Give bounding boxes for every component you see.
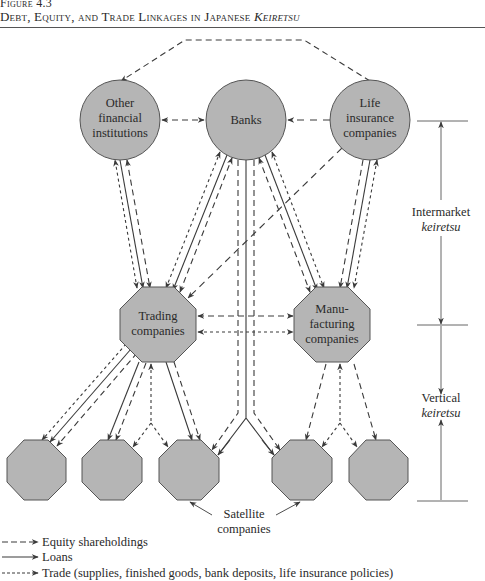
equity-line-manufacturing-sat4 — [306, 364, 326, 440]
equity-line-banks-satellite4 — [254, 160, 280, 450]
satellite-pointer-left — [190, 502, 212, 515]
satellite-company-3 — [159, 440, 219, 500]
equity-line-banks-trading — [180, 158, 232, 292]
satellite-company-4 — [272, 440, 332, 500]
trade-line-fork-sat4 — [322, 423, 340, 447]
loan-line-otherfi-trading — [120, 160, 143, 288]
vertical-label: Verticalkeiretsu — [421, 391, 461, 420]
equity-line-banks-satellite3 — [212, 160, 238, 450]
satellite-label: Satellitecompanies — [217, 507, 271, 536]
equity-line-trading-sat1 — [57, 353, 137, 446]
equity-line-otherfi-trading — [127, 160, 150, 288]
equity-line-manufacturing-sat5 — [354, 364, 376, 440]
loan-line-trading-sat2 — [108, 362, 139, 440]
label-trading: Tradingcompanies — [131, 309, 185, 338]
legend-loans-label: Loans — [42, 550, 73, 565]
loan-line-banks-satellites — [218, 160, 274, 455]
legend-equity-label: Equity shareholdings — [42, 535, 148, 550]
loan-line-banks-trading — [173, 155, 227, 290]
equity-line-life-to-otherfi — [121, 40, 370, 81]
trade-line-fork-sat2 — [133, 423, 151, 447]
intermarket-label: Intermarketkeiretsu — [412, 205, 471, 234]
equity-line-trading-sat3 — [174, 362, 200, 440]
loan-arrow-sat3 — [218, 440, 230, 455]
trade-line-fork-sat3 — [151, 423, 168, 447]
satellite-company-2 — [82, 440, 142, 500]
loan-line-trading-sat1 — [50, 349, 131, 442]
loan-line-trading-sat3 — [166, 362, 192, 440]
equity-line-banks-manufacturing — [259, 158, 310, 292]
legend-trade-label: Trade (supplies, finished goods, bank de… — [42, 566, 393, 581]
keiretsu-diagram: Otherfinancialinstitutions Banks Lifeins… — [0, 0, 485, 581]
loan-line-banks-manufacturing — [265, 155, 317, 290]
label-banks: Banks — [230, 113, 261, 127]
trade-line-life-manufacturing — [354, 160, 377, 288]
satellite-pointer-right — [276, 502, 300, 515]
trade-line-fork-sat5 — [340, 423, 357, 447]
satellite-company-5 — [349, 440, 408, 500]
trade-line-banks-trading — [166, 152, 220, 288]
equity-line-life-manufacturing — [340, 160, 363, 288]
trade-line-banks-manufacturing — [272, 152, 324, 288]
satellite-company-1 — [7, 440, 66, 500]
loan-line-life-manufacturing — [347, 160, 370, 288]
trade-line-otherfi-trading — [115, 160, 137, 288]
loan-arrow-sat4 — [262, 440, 274, 455]
equity-line-trading-sat2 — [116, 363, 146, 440]
